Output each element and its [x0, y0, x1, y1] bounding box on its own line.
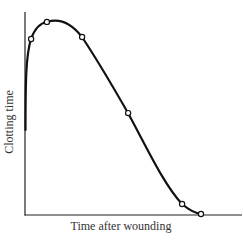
data-point-marker	[29, 36, 34, 41]
data-markers	[29, 19, 204, 216]
x-axis-label: Time after wounding	[0, 219, 242, 234]
y-axis-label: Clotting time	[2, 90, 17, 154]
data-point-marker	[80, 34, 85, 39]
data-curve	[26, 21, 202, 214]
axes	[25, 12, 243, 216]
data-point-marker	[126, 111, 131, 116]
data-point-marker	[44, 19, 49, 24]
data-point-marker	[198, 211, 203, 216]
x-axis-label-text: Time after wounding	[71, 219, 172, 234]
chart-canvas	[0, 0, 242, 243]
data-point-marker	[180, 201, 185, 206]
